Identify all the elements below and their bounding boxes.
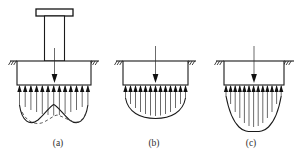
- ground-hatching-left-c: [215, 61, 223, 65]
- figure-container: (a): [0, 0, 308, 162]
- panel-caption-c: (c): [246, 138, 257, 149]
- panel-caption-b: (b): [148, 138, 159, 149]
- reaction-arrows-c: [224, 85, 283, 127]
- panel-a: (a): [9, 9, 100, 149]
- ground-hatching-left-a: [9, 61, 17, 65]
- panel-c: (c): [215, 46, 295, 149]
- ground-hatching-right-c: [284, 61, 292, 65]
- footing-pressure-diagram: (a): [0, 0, 308, 162]
- panel-b: (b): [115, 46, 197, 149]
- ground-hatching-left-b: [115, 61, 123, 65]
- reaction-arrows-a: [17, 85, 90, 116]
- column-cap-plate-a: [36, 9, 73, 16]
- panel-caption-a: (a): [53, 138, 64, 149]
